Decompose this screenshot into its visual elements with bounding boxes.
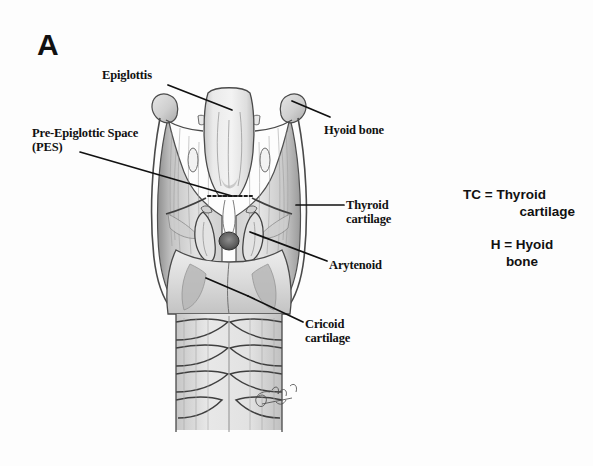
panel-letter-a: A [37,30,59,60]
legend-thyroid-cartilage: TC = Thyroid cartilage [463,186,581,220]
foramen-right [260,148,270,172]
label-hyoid-bone: Hyoid bone [324,124,384,138]
legend-h-line2: bone [463,253,581,270]
hyoid-cornu-left [152,94,178,123]
interarytenoid-notch [219,232,239,250]
label-arytenoid: Arytenoid [329,259,382,273]
legend-tc-line1: TC = Thyroid [463,187,546,202]
figure-panel-a: A Epiglottis Pre-Epiglottic Space (PES) … [0,0,593,466]
legend-hyoid-bone: H = Hyoid bone [463,236,581,270]
label-thyroid-cartilage: Thyroid cartilage [346,199,391,226]
hyoid-cornu-right [280,94,306,123]
foramen-left [188,148,198,172]
label-epiglottis: Epiglottis [102,69,152,83]
label-pre-epiglottic-space: Pre-Epiglottic Space (PES) [32,127,138,154]
legend-tc-line2: cartilage [463,203,581,220]
label-cricoid-cartilage: Cricoid cartilage [305,318,350,345]
legend-h-line1: H = Hyoid [491,237,554,252]
interarytenoid-ridge [223,200,235,234]
larynx-body [152,88,307,432]
larynx-illustration [0,0,593,466]
